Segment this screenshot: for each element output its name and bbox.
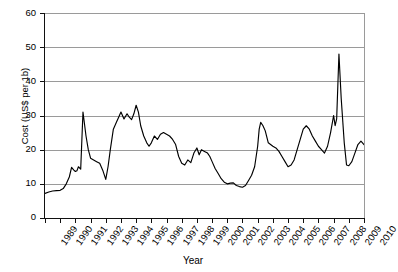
x-tick-mark-2007	[318, 218, 319, 223]
x-tick-mark-1994	[121, 218, 122, 223]
x-tick-mark-2008	[334, 218, 335, 223]
y-tick-label-10: 10	[10, 178, 36, 188]
x-tick-mark-2000	[212, 218, 213, 223]
y-tick-label-20: 20	[10, 144, 36, 154]
x-tick-mark-1993	[106, 218, 107, 223]
x-tick-mark-2006	[303, 218, 304, 223]
y-tick-label-50: 50	[10, 42, 36, 52]
x-tick-mark-2002	[242, 218, 243, 223]
x-tick-mark-1991	[75, 218, 76, 223]
x-tick-mark-1989	[45, 218, 46, 223]
x-tick-mark-1992	[91, 218, 92, 223]
x-tick-mark-2010	[364, 218, 365, 223]
x-tick-mark-2001	[227, 218, 228, 223]
y-tick-label-60: 60	[10, 8, 36, 18]
data-series-line	[45, 13, 364, 218]
x-tick-mark-1996	[151, 218, 152, 223]
x-tick-mark-1997	[167, 218, 168, 223]
y-tick-label-40: 40	[10, 76, 36, 86]
x-tick-mark-2004	[273, 218, 274, 223]
plot-area	[44, 13, 364, 219]
x-tick-mark-1999	[197, 218, 198, 223]
x-tick-mark-2009	[349, 218, 350, 223]
x-tick-mark-1998	[182, 218, 183, 223]
x-axis-title: Year	[0, 255, 386, 266]
x-tick-mark-1995	[136, 218, 137, 223]
plot-right-edge	[364, 13, 365, 218]
y-tick-label-0: 0	[10, 212, 36, 222]
x-tick-mark-2005	[288, 218, 289, 223]
x-tick-mark-2003	[258, 218, 259, 223]
x-tick-mark-1990	[60, 218, 61, 223]
y-tick-label-30: 30	[10, 110, 36, 120]
